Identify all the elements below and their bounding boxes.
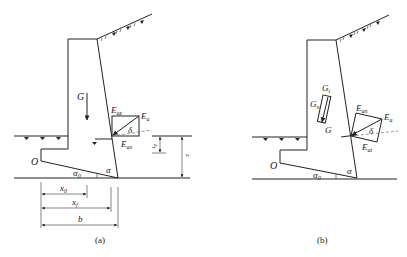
label-Eaz-a: Eaz	[110, 105, 123, 116]
figure-a: G δ Eaz Ea Eax α α0 O zf z x0 xf b (a)	[14, 14, 192, 245]
label-O-a: O	[31, 156, 38, 167]
label-x0: x0	[59, 183, 67, 194]
backfill-hatch-a	[112, 20, 144, 36]
Ea-arrow-b	[352, 119, 382, 135]
label-delta-a: δ	[128, 125, 133, 135]
label-Eax-a: Eax	[120, 139, 133, 150]
label-alpha-a: α	[106, 165, 111, 175]
label-G-b: G	[325, 125, 332, 135]
caption-b: (b)	[317, 235, 328, 245]
label-alpha-b: α	[347, 166, 352, 176]
label-zf: zf	[152, 143, 160, 149]
ground-hatch-a2	[92, 142, 97, 145]
backfill-slope-b	[336, 15, 389, 40]
label-z: z	[184, 153, 192, 157]
label-G-a: G	[77, 91, 84, 102]
label-alpha0-b: α0	[313, 170, 321, 181]
figure-b: Gt Gn G δ Ean Ea Eat α α0 O (b)	[252, 15, 398, 245]
label-Ea-a: Ea	[140, 111, 150, 122]
label-Gt: Gt	[322, 83, 331, 94]
label-xf: xf	[71, 197, 79, 208]
backfill-ticks-a	[101, 23, 135, 41]
caption-a: (a)	[95, 235, 105, 245]
label-delta-b: δ	[369, 126, 374, 136]
front-ground-hatch-b	[263, 138, 300, 141]
backfill-ticks-b	[340, 24, 371, 42]
Ea-arrow-a	[113, 116, 139, 135]
label-Eat: Eat	[361, 142, 373, 153]
weight-arrow-b	[322, 97, 328, 122]
backfill-hatch-b	[349, 21, 380, 38]
retaining-wall-diagram: G δ Eaz Ea Eax α α0 O zf z x0 xf b (a)	[0, 0, 407, 257]
wall-outline-a	[41, 39, 118, 178]
label-O-b: O	[270, 160, 277, 171]
backfill-slope-a	[97, 14, 152, 39]
label-Ean: Ean	[355, 103, 368, 114]
label-b: b	[78, 214, 83, 224]
label-Gn: Gn	[310, 99, 320, 110]
label-Ea-b: Ea	[383, 112, 393, 123]
front-ground-hatch-a	[24, 137, 61, 140]
